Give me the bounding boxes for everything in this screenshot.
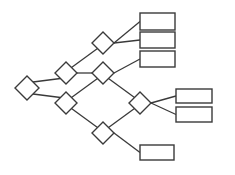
nodes-layer	[15, 13, 212, 160]
process-box-b5	[176, 107, 212, 122]
connector-d5-b3	[114, 59, 140, 73]
process-box-b3	[140, 51, 175, 67]
connector-d3-d7	[72, 109, 98, 128]
process-box-b4	[176, 89, 212, 103]
connector-d6-b4	[151, 96, 176, 103]
diagram-canvas	[0, 0, 235, 175]
decision-diamond-d1	[15, 76, 39, 100]
connector-d4-b1	[114, 22, 140, 44]
connector-d3-d5	[72, 79, 98, 98]
connector-d6-b5	[151, 103, 176, 115]
tree-diagram	[0, 0, 235, 175]
connector-d7-b6	[114, 133, 140, 153]
connector-d5-d6	[109, 79, 135, 98]
process-box-b2	[140, 32, 175, 48]
connector-d7-d6	[109, 109, 135, 128]
process-box-b6	[140, 145, 174, 160]
connector-d1-d3	[33, 94, 61, 98]
process-box-b1	[140, 13, 175, 30]
connector-d1-d2	[33, 79, 61, 83]
connector-d2-d4	[72, 49, 98, 68]
